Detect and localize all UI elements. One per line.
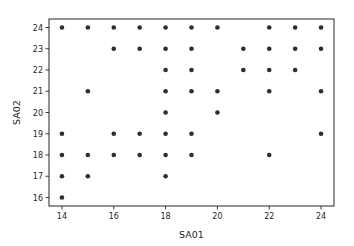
data-point [163,131,168,136]
y-tick-label: 23 [33,45,43,54]
y-tick-label: 20 [33,109,43,118]
data-point [163,68,168,73]
data-point [137,46,142,51]
data-point [189,25,194,30]
data-point [86,174,91,179]
data-point [60,25,65,30]
y-tick-label: 19 [33,130,43,139]
data-point [163,174,168,179]
data-point [267,46,272,51]
data-point [319,25,324,30]
data-point [189,153,194,158]
data-point [111,46,116,51]
data-point [163,89,168,94]
data-point [319,131,324,136]
data-point [60,174,65,179]
data-point [319,46,324,51]
data-point [163,46,168,51]
data-point [293,68,298,73]
y-tick-label: 17 [33,172,43,181]
data-point [215,89,220,94]
data-point [267,89,272,94]
data-point [111,153,116,158]
data-point [267,68,272,73]
data-point [189,68,194,73]
x-tick-label: 24 [316,212,326,221]
x-axis-label: SA01 [179,229,204,240]
scatter-plot-figure: 141618202224161718192021222324 SA01 SA02 [0,0,354,246]
data-point [111,25,116,30]
data-point [293,25,298,30]
x-tick-label: 16 [109,212,119,221]
data-point [293,46,298,51]
y-tick-label: 18 [33,151,43,160]
data-point [189,89,194,94]
x-tick-label: 20 [212,212,222,221]
x-tick-label: 14 [57,212,67,221]
y-tick-label: 21 [33,87,43,96]
data-point [189,46,194,51]
data-point [60,195,65,200]
y-tick-label: 22 [33,66,43,75]
data-point [86,25,91,30]
data-point [137,153,142,158]
data-point [137,131,142,136]
data-point [215,110,220,115]
data-point [86,89,91,94]
data-point [241,68,246,73]
data-point [111,131,116,136]
data-point [163,25,168,30]
y-tick-label: 24 [33,24,43,33]
data-point [163,153,168,158]
data-point [189,131,194,136]
data-point [60,153,65,158]
data-point [137,25,142,30]
data-point [267,153,272,158]
data-point [241,46,246,51]
data-point [163,110,168,115]
y-tick-label: 16 [33,194,43,203]
data-point [60,131,65,136]
data-point [267,25,272,30]
scatter-chart: 141618202224161718192021222324 SA01 SA02 [0,0,354,246]
x-tick-label: 18 [160,212,170,221]
data-point [319,89,324,94]
data-point [215,25,220,30]
data-point [86,153,91,158]
data-points [60,25,324,200]
y-axis-label: SA02 [11,100,22,125]
axis-ticks: 141618202224161718192021222324 [33,24,326,222]
x-tick-label: 22 [264,212,274,221]
